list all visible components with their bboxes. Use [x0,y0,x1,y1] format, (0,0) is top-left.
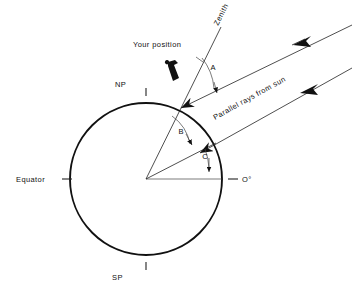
south-pole-label: SP [112,273,123,282]
equator-label: Equator [16,175,45,184]
earth-sun-angle-diagram: Your position Zenith Parallel rays from … [0,0,356,287]
zero-degree-label: O° [242,175,252,184]
parallel-rays-label: Parallel rays from sun [212,74,287,121]
sun-ray-upper [181,25,352,108]
angle-a-tick [196,57,203,62]
angle-b-arrow [186,134,192,145]
north-pole-label: NP [115,80,126,89]
sun-ray-upper-arrowhead-mid [293,36,311,47]
your-position-label: Your position [133,40,181,49]
person-silhouette-icon [165,60,179,81]
angle-a-label: A [210,63,215,72]
sun-ray-lower-arrowhead-mid [300,84,318,95]
angle-b-label: B [178,127,183,136]
subsolar-radius-line [146,143,216,179]
angle-c-label: C [202,152,208,161]
diagram-canvas: Your position Zenith Parallel rays from … [0,0,356,287]
zenith-label: Zenith [212,2,231,27]
